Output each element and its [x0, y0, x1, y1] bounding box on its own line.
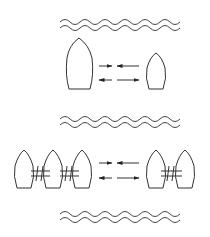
ship-icon: [146, 150, 165, 188]
large-ship-icon: [66, 38, 92, 89]
ship-icon: [175, 150, 194, 188]
ship-interaction-diagram: [0, 0, 210, 237]
ship-icon: [14, 150, 33, 188]
interaction-arrows-bottom-panel: [99, 163, 139, 178]
coupled-ships-right-group: [146, 150, 194, 188]
interaction-arrows-top-panel: [99, 66, 139, 80]
coupled-ships-left-group: [14, 150, 91, 188]
ship-icon: [43, 150, 62, 188]
ship-icon: [72, 150, 91, 188]
wave-band-top: [60, 20, 180, 31]
small-ship-icon: [146, 53, 165, 89]
wave-band-middle: [60, 117, 180, 128]
coupling-icon: [161, 166, 182, 181]
wave-band-bottom: [60, 212, 180, 223]
